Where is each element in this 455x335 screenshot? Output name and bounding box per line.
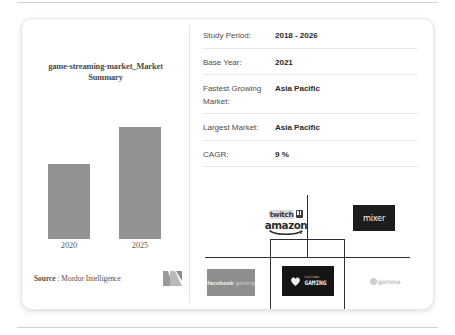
fifth-player-icon [370, 278, 377, 285]
source-row: Source : Mordor Intelligence [34, 271, 182, 289]
row-value-base-year: 2021 [275, 57, 418, 70]
twitch-icon [296, 210, 304, 218]
table-row: Largest Market: Asia Pacific [203, 114, 418, 141]
page-divider-top [17, 2, 438, 3]
x-axis-label-2025: 2025 [119, 241, 161, 250]
youtube-gaming-logo: YouTube GAMING [282, 266, 334, 296]
gaming-wordmark: GAMING [305, 280, 327, 286]
row-label-fastest-growing-market: Fastest Growing Market: [203, 83, 275, 108]
mordor-intelligence-logo [163, 271, 182, 286]
spec-table: Study Period: 2018 - 2026 Base Year: 202… [203, 19, 418, 167]
bar-series [22, 119, 189, 239]
amazon-wordmark: amazon [265, 220, 307, 230]
facebook-gaming-logo: facebook gaming [207, 269, 255, 296]
table-row: CAGR: 9 % [203, 141, 418, 168]
facebook-wordmark-bold: facebook [207, 280, 234, 286]
tree-center-box-top [270, 239, 345, 240]
row-label-cagr: CAGR: [203, 149, 275, 162]
source-text: Source : Mordor Intelligence [34, 274, 121, 283]
tree-center-box-right [344, 239, 345, 310]
tree-center-box-left [270, 239, 271, 310]
amazon-smile-icon [269, 230, 303, 235]
twitch-amazon-logo: twitch amazon [257, 207, 315, 237]
source-label: Source [34, 274, 56, 283]
fifth-player-wordmark: garena [370, 278, 401, 285]
bar-chart-plot [22, 119, 189, 239]
x-axis-labels: 2020 2025 [22, 241, 189, 255]
tree-connector-horizontal [205, 257, 410, 258]
fifth-player-logo: garena [363, 274, 407, 288]
row-value-largest-market: Asia Pacific [275, 122, 418, 135]
fifth-player-label: garena [378, 278, 401, 285]
bar-2020 [48, 164, 90, 239]
heart-icon [290, 276, 301, 287]
table-row: Base Year: 2021 [203, 49, 418, 76]
tree-connector-vertical-mid [307, 239, 308, 257]
row-label-study-period: Study Period: [203, 30, 275, 43]
table-row: Fastest Growing Market: Asia Pacific [203, 75, 418, 114]
mixer-wordmark: mixer [363, 213, 385, 223]
bar-2025 [119, 127, 161, 239]
chart-title: game-streaming-market_Market Summary [30, 61, 181, 83]
page-divider-bottom [17, 327, 438, 328]
facebook-wordmark: facebook gaming [207, 280, 254, 286]
table-row: Study Period: 2018 - 2026 [203, 19, 418, 49]
chart-panel: game-streaming-market_Market Summary 202… [22, 19, 189, 309]
row-label-base-year: Base Year: [203, 57, 275, 70]
youtube-gaming-lockup: YouTube GAMING [305, 276, 327, 286]
row-value-study-period: 2018 - 2026 [275, 30, 418, 43]
facebook-wordmark-light: gaming [234, 280, 255, 286]
summary-panel: Study Period: 2018 - 2026 Base Year: 202… [189, 19, 433, 309]
source-attribution: : Mordor Intelligence [56, 274, 121, 283]
market-summary-card: game-streaming-market_Market Summary 202… [21, 18, 434, 310]
twitch-lockup: twitch [269, 210, 304, 219]
x-axis-label-2020: 2020 [48, 241, 90, 250]
row-value-cagr: 9 % [275, 149, 418, 162]
row-value-fastest-growing-market: Asia Pacific [275, 83, 418, 96]
twitch-wordmark: twitch [269, 210, 295, 219]
row-label-largest-market: Largest Market: [203, 122, 275, 135]
mixer-logo: mixer [353, 205, 395, 231]
market-players-tree: twitch amazon mixer facebook gaming [193, 195, 425, 310]
